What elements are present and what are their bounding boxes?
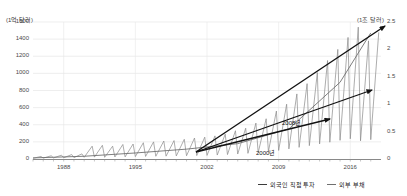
legend-label-fdi: 외국인 직접 투자 (270, 180, 315, 189)
x-axis-tick-label: 1988 (50, 164, 78, 170)
y-axis-tick-label: 0 (2, 155, 29, 161)
y2-axis-tick-label: 2 (387, 45, 390, 51)
legend-item-external-debt[interactable]: 외부 부채 (327, 180, 365, 189)
chart-legend: 외국인 직접 투자 외부 부채 (258, 180, 365, 189)
y2-axis-tick-label: 2.5 (387, 18, 395, 24)
x-axis-tick-label: 1995 (121, 164, 149, 170)
y-axis-tick-label: 200 (2, 138, 29, 144)
y2-axis-tick-label: 0 (387, 155, 390, 161)
x-axis-tick-label: 2002 (193, 164, 221, 170)
y-axis-tick-label: 1000 (2, 69, 29, 75)
legend-item-fdi[interactable]: 외국인 직접 투자 (258, 180, 315, 189)
chart-container: (1억 달러) (1조 달러) 020040060080010001200140… (0, 0, 407, 196)
y-axis-tick-label: 600 (2, 104, 29, 110)
series-line-fdi (33, 27, 379, 158)
y2-axis-tick-label: 0.5 (387, 128, 395, 134)
y-axis-tick-label: 1200 (2, 52, 29, 58)
y2-axis-tick-label: 1.5 (387, 73, 395, 79)
y2-axis-tick-label: 1 (387, 100, 390, 106)
y-axis-tick-label: 800 (2, 87, 29, 93)
y-axis-tick-label: 400 (2, 121, 29, 127)
legend-label-external-debt: 외부 부채 (339, 180, 365, 189)
chart-annotation-label: 2008년 (282, 118, 301, 127)
legend-swatch-fdi (258, 184, 267, 185)
y-axis-tick-label: 1600 (2, 18, 29, 24)
steep-growth-arrow (196, 26, 385, 152)
x-axis-tick-label: 2009 (265, 164, 293, 170)
chart-annotation-label: 2000년 (256, 148, 275, 157)
legend-swatch-external-debt (327, 184, 336, 185)
x-axis-tick-label: 2016 (336, 164, 364, 170)
y-axis-tick-label: 1400 (2, 35, 29, 41)
trend-arrows-group (196, 26, 385, 152)
